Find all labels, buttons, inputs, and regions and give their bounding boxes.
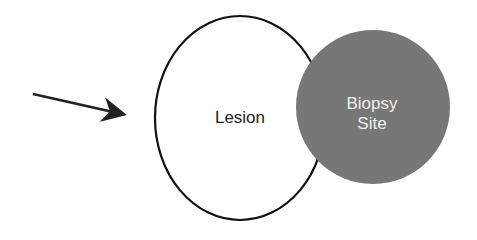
biopsy-site-label: Biopsy Site (332, 94, 412, 134)
lesion-label: Lesion (200, 108, 280, 128)
biopsy-label-line2: Site (332, 114, 412, 134)
biopsy-label-line1: Biopsy (332, 94, 412, 114)
arrow (33, 94, 122, 114)
